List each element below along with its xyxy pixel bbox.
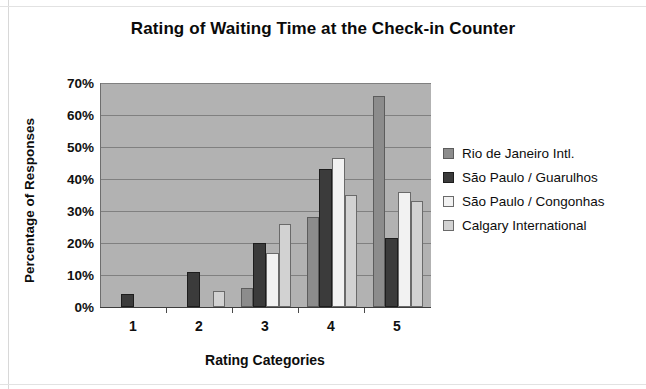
x-axis-tick-mark bbox=[232, 308, 233, 313]
bar bbox=[266, 253, 279, 307]
bar bbox=[279, 224, 292, 307]
x-axis-tick-label: 4 bbox=[311, 318, 351, 334]
bar bbox=[385, 238, 398, 307]
page-edge-line bbox=[8, 0, 9, 389]
bar bbox=[253, 243, 266, 307]
chart-figure: Rating of Waiting Time at the Check-in C… bbox=[0, 0, 646, 389]
y-axis-tick-label: 60% bbox=[40, 108, 94, 123]
page-edge-top-line bbox=[0, 6, 646, 7]
chart-title: Rating of Waiting Time at the Check-in C… bbox=[0, 19, 646, 39]
bar bbox=[213, 291, 226, 307]
gridline bbox=[101, 83, 431, 84]
legend-item: Calgary International bbox=[443, 213, 643, 237]
y-axis-tick-label: 20% bbox=[40, 236, 94, 251]
legend-swatch-icon bbox=[443, 220, 454, 231]
x-axis-tick-label: 2 bbox=[179, 318, 219, 334]
x-axis-line bbox=[100, 307, 431, 308]
x-axis-tick-mark bbox=[166, 308, 167, 313]
chart-legend: Rio de Janeiro Intl.São Paulo / Guarulho… bbox=[443, 141, 643, 237]
legend-item: Rio de Janeiro Intl. bbox=[443, 141, 643, 165]
bar bbox=[187, 272, 200, 307]
legend-item: São Paulo / Congonhas bbox=[443, 189, 643, 213]
y-axis-tick-label: 70% bbox=[40, 76, 94, 91]
x-axis-tick-label: 3 bbox=[245, 318, 285, 334]
plot-area bbox=[100, 83, 431, 307]
bar bbox=[319, 169, 332, 307]
x-axis-tick-label: 1 bbox=[113, 318, 153, 334]
x-axis-tick-label: 5 bbox=[377, 318, 417, 334]
legend-item-label: Calgary International bbox=[462, 218, 587, 233]
bar bbox=[307, 217, 320, 307]
y-axis-tick-label: 30% bbox=[40, 204, 94, 219]
page-edge-bottom-line bbox=[0, 384, 646, 385]
y-axis-tick-label: 50% bbox=[40, 140, 94, 155]
bar bbox=[373, 96, 386, 307]
y-axis-tick-label: 10% bbox=[40, 268, 94, 283]
y-axis-ticks: 0%10%20%30%40%50%60%70% bbox=[34, 0, 94, 389]
legend-item: São Paulo / Guarulhos bbox=[443, 165, 643, 189]
bar bbox=[332, 158, 345, 307]
legend-item-label: São Paulo / Congonhas bbox=[462, 194, 605, 209]
legend-item-label: São Paulo / Guarulhos bbox=[462, 170, 598, 185]
legend-swatch-icon bbox=[443, 148, 454, 159]
legend-item-label: Rio de Janeiro Intl. bbox=[462, 146, 575, 161]
bar bbox=[411, 201, 424, 307]
y-axis-tick-label: 0% bbox=[40, 300, 94, 315]
x-axis-label: Rating Categories bbox=[100, 352, 430, 368]
legend-swatch-icon bbox=[443, 196, 454, 207]
x-axis-tick-mark bbox=[364, 308, 365, 313]
y-axis-tick-label: 40% bbox=[40, 172, 94, 187]
x-axis-tick-mark bbox=[298, 308, 299, 313]
bar bbox=[345, 195, 358, 307]
bar bbox=[398, 192, 411, 307]
bar bbox=[241, 288, 254, 307]
bar bbox=[121, 294, 134, 307]
legend-swatch-icon bbox=[443, 172, 454, 183]
